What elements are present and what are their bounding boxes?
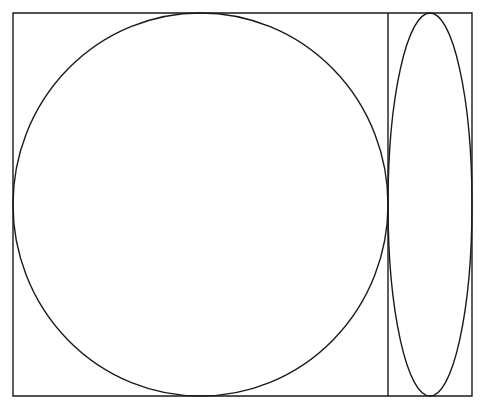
diagram-background	[0, 0, 486, 413]
geometry-diagram	[0, 0, 486, 413]
figure-canvas	[0, 0, 486, 413]
